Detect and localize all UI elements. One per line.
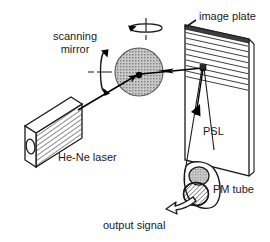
output-signal-label: output signal [103, 219, 165, 231]
image-plate-bottom-tick [249, 172, 254, 176]
scanning-mirror-label-line1: scanning [53, 30, 97, 42]
psl-label: PSL [203, 125, 224, 137]
vertical-rotation-axis [128, 18, 162, 44]
he-ne-laser-label: He-Ne laser [58, 151, 117, 163]
image-plate-corner-tick [249, 39, 254, 44]
figure-root: scanning mirror image plate He-Ne laser … [0, 0, 270, 242]
scanning-mirror-label-line2: mirror [61, 43, 90, 55]
image-plate-label: image plate [199, 10, 256, 22]
image-plate-face [185, 25, 249, 176]
image-plate-leader [187, 20, 197, 27]
image-plate [185, 25, 254, 176]
pm-tube-label: PM tube [213, 183, 254, 195]
laser-scanner-diagram: scanning mirror image plate He-Ne laser … [0, 0, 270, 242]
